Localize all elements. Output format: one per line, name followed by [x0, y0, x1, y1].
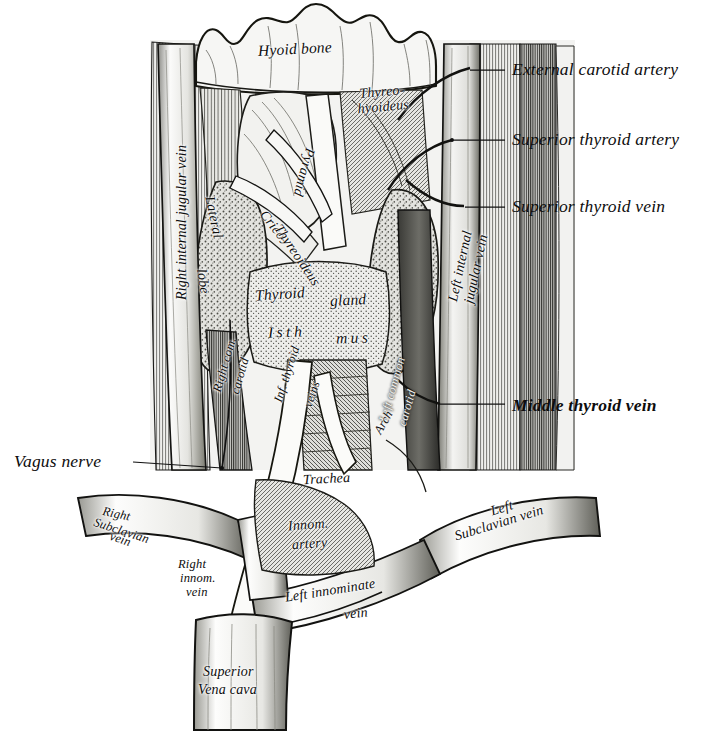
label-isthmus-right: mus: [336, 329, 372, 347]
label-lateral-lobe-second: lobe: [193, 268, 211, 295]
label-thyreohyoideus: Thyreo- hyoideus: [356, 83, 410, 117]
label-superior-thyroid-vein: Superior thyroid vein: [512, 197, 665, 216]
label-thyreohyoideus-text: Thyreo- hyoideus: [357, 82, 409, 116]
label-trachea: Trachea: [303, 471, 351, 488]
label-left-innominate-vein-second: vein: [343, 605, 369, 622]
label-superior-vena-cava: Superior: [203, 665, 254, 680]
label-right-innominate-vein-third: vein: [186, 586, 208, 599]
label-superior-vena-cava-second: Vena cava: [198, 683, 257, 698]
label-innominate-artery-second: artery: [292, 536, 328, 553]
label-innominate-artery: Innom.: [288, 517, 329, 535]
label-right-innominate-vein-second: innom.: [180, 572, 216, 585]
label-superior-thyroid-artery: Superior thyroid artery: [512, 130, 679, 149]
label-right-innominate-vein: Right: [178, 558, 206, 571]
label-right-internal-jugular-vein: Right internal jugular vein: [175, 145, 190, 300]
label-middle-thyroid-vein: Middle thyroid vein: [512, 396, 657, 415]
label-thyroid-gland-second: gland: [330, 291, 367, 309]
label-vagus-nerve: Vagus nerve: [14, 452, 101, 471]
label-thyroid-gland: Thyroid: [254, 284, 305, 304]
label-external-carotid-artery: External carotid artery: [512, 60, 678, 79]
label-isthmus-left: Isth: [268, 323, 306, 341]
anatomical-plate: External carotid artery Superior thyroid…: [0, 0, 722, 733]
